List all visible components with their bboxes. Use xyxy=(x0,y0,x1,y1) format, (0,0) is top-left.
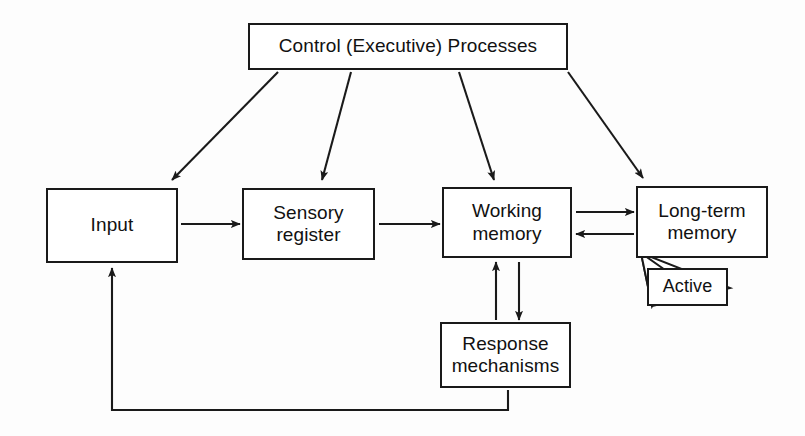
node-input: Input xyxy=(46,188,178,263)
node-working-label: Working memory xyxy=(472,200,542,245)
node-input-label: Input xyxy=(91,214,134,236)
node-response-label: Response mechanisms xyxy=(452,333,560,378)
node-sensory-register: Sensory register xyxy=(242,188,375,260)
information-processing-diagram: Control (Executive) Processes Input Sens… xyxy=(0,0,805,436)
node-active-label: Active xyxy=(663,276,713,297)
node-working-memory: Working memory xyxy=(442,187,572,258)
connector-control-to-sensory xyxy=(322,72,351,180)
node-response-mechanisms: Response mechanisms xyxy=(440,322,571,388)
node-control-label: Control (Executive) Processes xyxy=(279,35,537,57)
connector-control-to-working xyxy=(459,72,494,180)
node-sensory-label: Sensory register xyxy=(273,202,343,247)
node-long-term-memory: Long-term memory xyxy=(636,186,768,258)
node-longterm-label: Long-term memory xyxy=(658,200,746,245)
node-control-executive-processes: Control (Executive) Processes xyxy=(248,23,568,70)
connector-control-to-longterm xyxy=(568,72,643,178)
connector-control-to-input xyxy=(172,72,278,180)
node-active-callout: Active xyxy=(647,268,728,306)
